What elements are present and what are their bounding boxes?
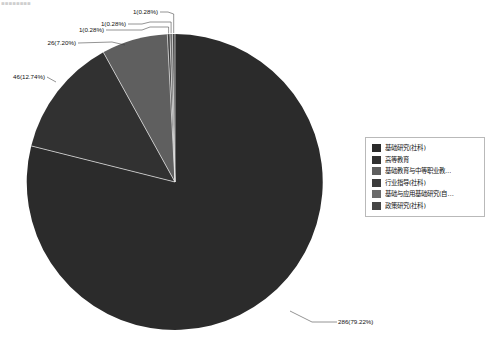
legend-item-3[interactable]: 行业指导(社科): [372, 178, 478, 189]
legend-item-4[interactable]: 基础与应用基础研究(自…: [372, 189, 478, 200]
data-label-tiny-b: 1(0.28%): [101, 20, 126, 27]
legend-swatch-icon: [372, 190, 381, 198]
chart-legend: 基础研究(社科) 高等教育 基础教育与中等职业教… 行业指导(社科) 基础与应用…: [365, 137, 485, 217]
legend-swatch-icon: [372, 167, 381, 175]
leader-line-third: [78, 42, 125, 45]
leader-line-tiny-b: [128, 22, 171, 33]
legend-item-label: 基础教育与中等职业教…: [385, 166, 451, 177]
legend-item-label: 行业指导(社科): [385, 178, 426, 189]
legend-swatch-icon: [372, 156, 381, 164]
leader-line-tiny-a: [106, 27, 169, 34]
legend-item-1[interactable]: 高等教育: [372, 155, 478, 166]
legend-item-label: 高等教育: [385, 155, 409, 166]
legend-item-label: 基础研究(社科): [385, 143, 426, 154]
data-label-tiny-a: 1(0.28%): [79, 26, 104, 33]
data-label-second: 46(12.74%): [13, 73, 45, 80]
legend-item-0[interactable]: 基础研究(社科): [372, 143, 478, 154]
legend-swatch-icon: [372, 179, 381, 187]
leader-line-second: [47, 77, 56, 82]
legend-swatch-icon: [372, 144, 381, 152]
legend-item-label: 政策研究(社科): [385, 201, 426, 212]
chart-canvas: ▪▪▪▪▪▪▪▪ 286(79.22%) 46(12.74%) 26(7.: [0, 0, 492, 346]
legend-swatch-icon: [372, 202, 381, 210]
legend-item-2[interactable]: 基础教育与中等职业教…: [372, 166, 478, 177]
legend-item-5[interactable]: 政策研究(社科): [372, 201, 478, 212]
data-label-big: 286(79.22%): [338, 318, 373, 325]
leader-line-tiny-c: [160, 12, 174, 33]
data-label-tiny-c: 1(0.28%): [133, 8, 158, 15]
leader-line-big: [290, 311, 337, 322]
data-label-third: 26(7.20%): [47, 39, 76, 46]
legend-item-label: 基础与应用基础研究(自…: [385, 189, 454, 200]
